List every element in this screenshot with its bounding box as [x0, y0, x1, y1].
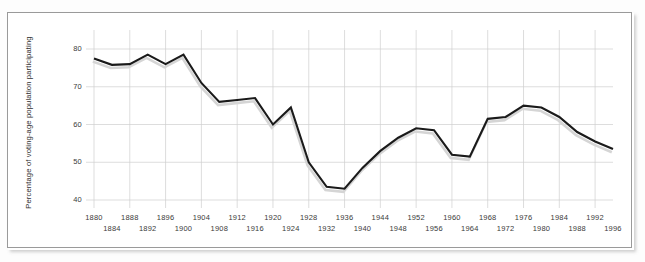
y-tick-label: 40 — [62, 195, 82, 204]
x-tick-label-upper: 1888 — [117, 213, 143, 222]
x-tick-label-upper: 1912 — [224, 213, 250, 222]
x-tick-label-lower: 1900 — [170, 224, 196, 233]
x-tick-label-lower: 1972 — [493, 224, 519, 233]
x-tick-label-upper: 1936 — [332, 213, 358, 222]
x-tick-label-upper: 1880 — [81, 213, 107, 222]
x-tick-label-upper: 1984 — [546, 213, 572, 222]
x-tick-label-lower: 1996 — [600, 224, 626, 233]
y-tick-label: 80 — [62, 44, 82, 53]
x-tick-label-upper: 1952 — [403, 213, 429, 222]
x-tick-label-lower: 1892 — [135, 224, 161, 233]
x-tick-label-lower: 1908 — [206, 224, 232, 233]
x-tick-label-lower: 1964 — [457, 224, 483, 233]
x-tick-label-lower: 1916 — [242, 224, 268, 233]
y-tick-label: 70 — [62, 82, 82, 91]
x-tick-label-lower: 1940 — [349, 224, 375, 233]
y-tick-label: 60 — [62, 120, 82, 129]
x-tick-label-lower: 1948 — [385, 224, 411, 233]
x-tick-label-lower: 1988 — [564, 224, 590, 233]
x-tick-label-upper: 1920 — [260, 213, 286, 222]
x-tick-label-upper: 1960 — [439, 213, 465, 222]
x-tick-label-lower: 1980 — [528, 224, 554, 233]
x-tick-label-lower: 1932 — [314, 224, 340, 233]
x-tick-label-upper: 1896 — [153, 213, 179, 222]
x-tick-label-lower: 1924 — [278, 224, 304, 233]
x-tick-label-upper: 1928 — [296, 213, 322, 222]
x-tick-label-upper: 1904 — [188, 213, 214, 222]
x-tick-label-upper: 1968 — [475, 213, 501, 222]
y-axis-title: Percentage of voting-age population part… — [24, 33, 33, 213]
x-tick-label-lower: 1956 — [421, 224, 447, 233]
x-tick-label-upper: 1944 — [367, 213, 393, 222]
y-tick-label: 50 — [62, 157, 82, 166]
x-tick-label-lower: 1884 — [99, 224, 125, 233]
x-tick-label-upper: 1976 — [511, 213, 537, 222]
x-tick-label-upper: 1992 — [582, 213, 608, 222]
figure-root: Percentage of voting-age population part… — [0, 0, 645, 262]
